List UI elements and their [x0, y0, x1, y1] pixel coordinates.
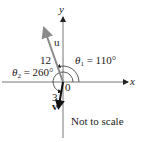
not-to-scale-note: Not to scale — [71, 115, 124, 127]
x-axis-label: x — [129, 75, 135, 87]
theta1-label: θ1 = 110° — [75, 54, 116, 68]
theta2-label: θ2 = 260° — [12, 66, 54, 80]
origin-label: 0 — [65, 81, 71, 93]
y-axis-label: y — [58, 3, 64, 15]
vector-u-label: u — [54, 36, 60, 48]
vector-u-magnitude: 12 — [40, 54, 51, 66]
vector-v-label: v — [52, 100, 58, 112]
vector-v — [59, 82, 64, 108]
vector-diagram: y x 0 u 12 θ1 = 110° θ2 = 260° 3 v Not t… — [0, 0, 141, 142]
